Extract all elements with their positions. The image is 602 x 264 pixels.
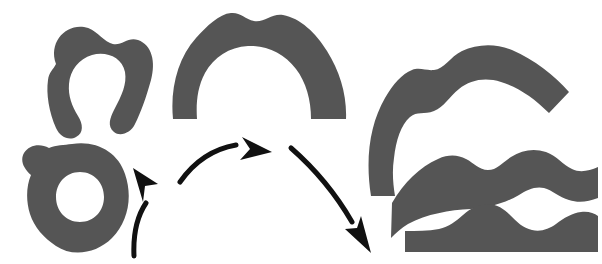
shape-transformation-figure — [0, 0, 602, 264]
figure-canvas — [0, 0, 602, 264]
